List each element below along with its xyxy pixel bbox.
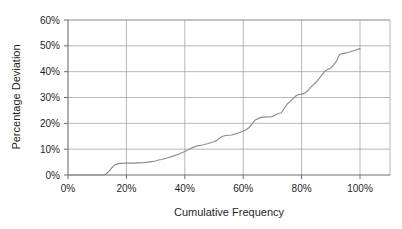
- x-axis-title: Cumulative Frequency: [174, 206, 285, 218]
- cumulative-frequency-line-chart: 0%20%40%60%80%100% 0%10%20%30%40%50%60% …: [0, 0, 402, 229]
- y-tick-label: 30%: [40, 92, 60, 103]
- y-tick-label: 0%: [46, 170, 61, 181]
- y-tick-label: 20%: [40, 118, 60, 129]
- x-tick-label: 60%: [233, 183, 253, 194]
- y-axis-tick-labels: 0%10%20%30%40%50%60%: [40, 15, 60, 181]
- y-axis-title: Percentage Deviation: [10, 44, 22, 149]
- y-tick-label: 60%: [40, 15, 60, 26]
- x-tick-label: 40%: [175, 183, 195, 194]
- y-tick-label: 40%: [40, 66, 60, 77]
- y-axis-ticks: [64, 20, 68, 175]
- x-tick-label: 20%: [116, 183, 136, 194]
- chart-container: 0%20%40%60%80%100% 0%10%20%30%40%50%60% …: [0, 0, 402, 229]
- x-axis-ticks: [68, 175, 360, 179]
- x-tick-label: 0%: [61, 183, 76, 194]
- x-tick-label: 100%: [347, 183, 373, 194]
- y-tick-label: 50%: [40, 40, 60, 51]
- x-tick-label: 80%: [292, 183, 312, 194]
- x-axis-tick-labels: 0%20%40%60%80%100%: [61, 183, 373, 194]
- y-tick-label: 10%: [40, 144, 60, 155]
